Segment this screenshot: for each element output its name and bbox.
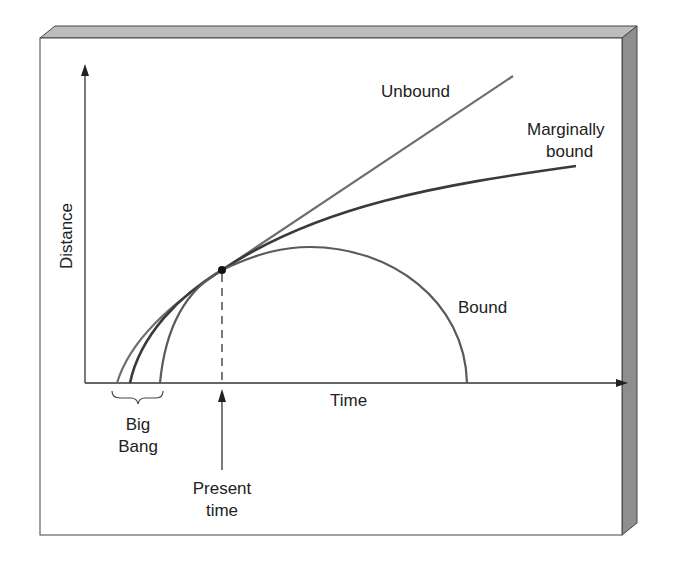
label-marginally-line2: bound bbox=[546, 142, 593, 161]
frame-right-side bbox=[622, 26, 637, 535]
label-marginally-line1: Marginally bbox=[527, 120, 605, 139]
label-present-line1: Present bbox=[193, 479, 252, 498]
label-present-line2: time bbox=[206, 501, 238, 520]
label-big-bang-line2: Bang bbox=[118, 437, 158, 456]
label-unbound: Unbound bbox=[381, 82, 450, 101]
frame-top-bevel bbox=[40, 26, 637, 38]
label-big-bang-line1: Big bbox=[126, 415, 151, 434]
present-point bbox=[218, 266, 226, 274]
frame-front-panel bbox=[40, 38, 622, 535]
y-axis-label: Distance bbox=[57, 203, 76, 269]
expansion-diagram: Unbound Marginally bound Bound Time Dist… bbox=[0, 0, 692, 561]
label-bound: Bound bbox=[458, 298, 507, 317]
frame bbox=[40, 26, 637, 535]
x-axis-label: Time bbox=[330, 391, 367, 410]
